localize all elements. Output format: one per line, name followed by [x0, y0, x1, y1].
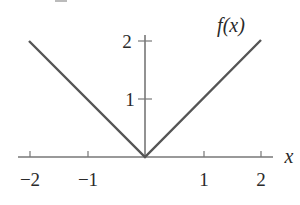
plot: −2 −1 1 2 1 2 x f(x) [0, 0, 300, 205]
x-tick-label-neg1: −1 [78, 169, 98, 190]
x-tick-label-neg2: −2 [20, 169, 40, 190]
function-label: f(x) [217, 14, 245, 37]
x-tick-label-1: 1 [199, 169, 209, 190]
x-tick-label-2: 2 [256, 169, 266, 190]
x-axis-label: x [284, 145, 294, 167]
y-tick-label-1: 1 [125, 89, 135, 110]
y-tick-label-2: 2 [122, 31, 132, 52]
